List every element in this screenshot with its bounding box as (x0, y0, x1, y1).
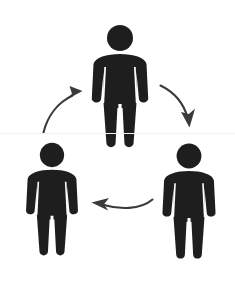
arrow-bottom-right-to-bottom-left-shaft (104, 200, 153, 209)
arrow-bottom-right-to-bottom-left (92, 198, 153, 211)
arrow-bottom-right-to-bottom-left-head (92, 198, 110, 211)
diagram-canvas: Three black stick-figure pictograms arra… (0, 0, 235, 289)
arrow-bottom-left-to-top (44, 86, 83, 133)
figure-bottom-right-leg-gap (187, 218, 190, 257)
pictogram-figure-bottom-left (26, 143, 78, 256)
pictogram-figure-bottom-right (162, 144, 215, 259)
arrow-bottom-left-to-top-shaft (44, 96, 73, 133)
pictogram-figure-top (92, 25, 148, 147)
figure-top-leg-gap (118, 104, 121, 146)
arrow-top-to-bottom-right (161, 86, 196, 128)
figure-bottom-left-leg-gap (51, 216, 54, 255)
figure-bottom-left-head (40, 143, 64, 167)
arrow-top-to-bottom-right-head (181, 109, 195, 128)
arrow-bottom-left-to-top-head (67, 86, 83, 100)
figure-bottom-right-head (177, 144, 202, 169)
figure-top-head (107, 25, 133, 51)
cycle-diagram (0, 0, 235, 289)
